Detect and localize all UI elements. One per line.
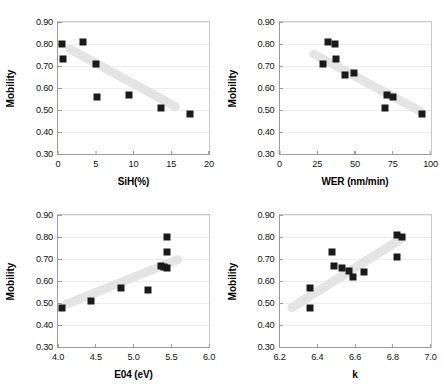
panel-k: Mobility 0.300.400.500.600.700.800.906.2… <box>222 193 443 386</box>
trend-band <box>308 48 427 118</box>
gridline <box>280 325 431 326</box>
y-axis-tick-label: 0.50 <box>257 105 279 115</box>
y-axis-label-bottom-left: Mobility <box>4 214 18 348</box>
data-point <box>59 56 66 63</box>
y-axis-tick-label: 0.80 <box>36 232 58 242</box>
data-point <box>58 41 65 48</box>
gridline <box>280 132 431 133</box>
data-point <box>58 304 65 311</box>
data-point <box>306 284 313 291</box>
trend-band <box>63 43 181 113</box>
x-axis-tick-label: 6.8 <box>387 347 399 362</box>
x-axis-tick-label: 10 <box>129 154 139 169</box>
data-point <box>332 41 339 48</box>
y-axis-tick-label: 0.60 <box>257 83 279 93</box>
x-axis-tick-label: 5.5 <box>165 347 177 362</box>
data-point <box>399 234 406 241</box>
y-axis-label-bottom-right: Mobility <box>226 214 240 348</box>
y-axis-tick-label: 0.70 <box>36 254 58 264</box>
y-axis-tick-label: 0.80 <box>257 232 279 242</box>
gridline <box>280 22 431 23</box>
y-axis-label-top-left: Mobility <box>4 21 18 155</box>
x-axis-label-k: k <box>279 369 432 380</box>
gridline <box>280 88 431 89</box>
data-point <box>163 264 170 271</box>
x-axis-tick-label: 0 <box>277 154 282 169</box>
data-point <box>164 234 171 241</box>
x-axis-tick-label: 50 <box>350 154 360 169</box>
x-axis-tick-label: 5.0 <box>127 347 139 362</box>
data-point <box>125 91 132 98</box>
panel-e04: Mobility 0.300.400.500.600.700.800.904.0… <box>0 193 222 386</box>
plot-area-k: 0.300.400.500.600.700.800.906.26.46.66.8… <box>279 214 432 348</box>
data-point <box>319 60 326 67</box>
data-point <box>88 297 95 304</box>
data-point <box>342 71 349 78</box>
data-point <box>419 111 426 118</box>
y-axis-tick-label: 0.50 <box>36 298 58 308</box>
x-axis-tick-label: 20 <box>204 154 214 169</box>
y-axis-tick-label: 0.80 <box>36 39 58 49</box>
data-point <box>94 93 101 100</box>
y-axis-tick-label: 0.60 <box>257 276 279 286</box>
x-axis-label-sih: SiH(%) <box>57 176 210 187</box>
gridline <box>280 237 431 238</box>
data-point <box>393 253 400 260</box>
gridline <box>58 303 209 304</box>
plot-area-wer: 0.300.400.500.600.700.800.900255075100 <box>279 21 432 155</box>
data-point <box>187 111 194 118</box>
data-point <box>351 69 358 76</box>
data-point <box>382 104 389 111</box>
y-axis-tick-label: 0.90 <box>36 17 58 27</box>
y-axis-tick-label: 0.50 <box>36 105 58 115</box>
gridline <box>58 88 209 89</box>
gridline <box>280 281 431 282</box>
gridline <box>58 66 209 67</box>
x-axis-tick-label: 7.0 <box>424 347 436 362</box>
x-axis-label-e04: E04 (eV) <box>57 369 210 380</box>
y-axis-tick-label: 0.40 <box>257 320 279 330</box>
data-point <box>117 284 124 291</box>
y-axis-tick-label: 0.40 <box>257 127 279 137</box>
gridline <box>280 259 431 260</box>
y-axis-tick-label: 0.90 <box>257 17 279 27</box>
x-axis-label-wer: WER (nm/min) <box>279 176 432 187</box>
data-point <box>329 249 336 256</box>
plot-area-e04: 0.300.400.500.600.700.800.904.04.55.05.5… <box>57 214 210 348</box>
data-point <box>306 304 313 311</box>
y-axis-tick-label: 0.80 <box>257 39 279 49</box>
gridline <box>280 66 431 67</box>
gridline <box>280 215 431 216</box>
x-axis-tick-label: 6.0 <box>203 347 215 362</box>
data-point <box>338 264 345 271</box>
x-axis-tick-label: 6.2 <box>273 347 285 362</box>
data-point <box>157 104 164 111</box>
gridline <box>58 215 209 216</box>
x-axis-tick-label: 15 <box>166 154 176 169</box>
panel-sih: Mobility 0.300.400.500.600.700.800.90051… <box>0 0 222 193</box>
y-axis-tick-label: 0.70 <box>257 61 279 71</box>
y-axis-tick-label: 0.70 <box>257 254 279 264</box>
data-point <box>144 286 151 293</box>
plot-area-sih: 0.300.400.500.600.700.800.9005101520 <box>57 21 210 155</box>
gridline <box>58 22 209 23</box>
y-axis-tick-label: 0.50 <box>257 298 279 308</box>
gridline <box>280 110 431 111</box>
gridline <box>58 259 209 260</box>
data-point <box>79 38 86 45</box>
x-axis-tick-label: 75 <box>388 154 398 169</box>
figure-panel-grid: Mobility 0.300.400.500.600.700.800.90051… <box>0 0 443 386</box>
y-axis-tick-label: 0.90 <box>36 210 58 220</box>
data-point <box>164 249 171 256</box>
y-axis-tick-label: 0.40 <box>36 320 58 330</box>
x-axis-tick-label: 4.0 <box>52 347 64 362</box>
x-axis-tick-label: 4.5 <box>90 347 102 362</box>
x-axis-tick-label: 100 <box>423 154 438 169</box>
data-point <box>333 56 340 63</box>
gridline <box>58 325 209 326</box>
y-axis-tick-label: 0.70 <box>36 61 58 71</box>
y-axis-tick-label: 0.40 <box>36 127 58 137</box>
gridline <box>280 303 431 304</box>
data-point <box>331 262 338 269</box>
data-point <box>389 93 396 100</box>
